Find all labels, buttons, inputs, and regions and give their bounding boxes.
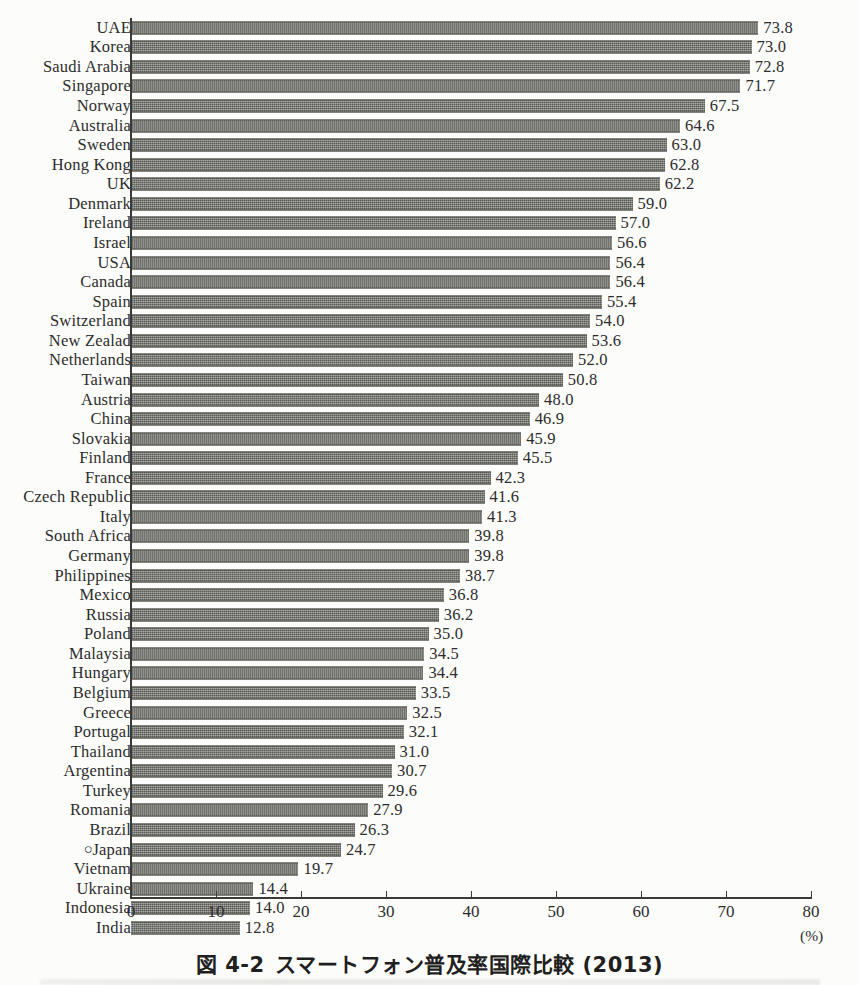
- x-tick: [301, 891, 302, 898]
- bar: [131, 256, 610, 269]
- x-tick-label: 80: [803, 903, 820, 920]
- bar: [131, 158, 665, 171]
- figure-title: スマートフォン普及率国際比較 (2013): [275, 953, 663, 977]
- category-label-uk: UK: [107, 176, 131, 193]
- category-label-philippines: Philippines: [55, 567, 131, 584]
- bar-value-label: 59.0: [638, 196, 668, 213]
- category-label-usa: USA: [97, 254, 131, 271]
- category-label-australia: Australia: [69, 117, 131, 134]
- category-label-ireland: Ireland: [83, 215, 131, 232]
- bar-value-label: 46.9: [535, 411, 565, 428]
- bar-value-label: 67.5: [710, 98, 740, 115]
- category-label-mexico: Mexico: [79, 587, 131, 604]
- bar-row: Belgium33.5: [0, 683, 859, 703]
- x-tick: [556, 891, 557, 898]
- category-label-singapore: Singapore: [62, 78, 131, 95]
- category-label-spain: Spain: [92, 293, 131, 310]
- bar: [131, 217, 616, 230]
- bar-value-label: 56.4: [615, 254, 645, 271]
- bar-row: Saudi Arabia72.8: [0, 57, 859, 77]
- bar: [131, 276, 610, 289]
- category-label-korea: Korea: [90, 39, 131, 56]
- figure-caption: 図 4-2スマートフォン普及率国際比較 (2013): [0, 948, 859, 978]
- bar-row: New Zealad53.6: [0, 331, 859, 351]
- bar-row: Australia64.6: [0, 116, 859, 136]
- bar-row: UAE73.8: [0, 18, 859, 38]
- bar-row: Turkey29.6: [0, 781, 859, 801]
- bar-row: Israel56.6: [0, 233, 859, 253]
- bar-value-label: 36.2: [444, 606, 474, 623]
- bar-row: Canada56.4: [0, 272, 859, 292]
- category-label-china: China: [91, 411, 131, 428]
- bar-value-label: 29.6: [388, 783, 418, 800]
- category-label-netherlands: Netherlands: [49, 352, 131, 369]
- bar-row: Ireland57.0: [0, 214, 859, 234]
- bar-value-label: 24.7: [346, 841, 376, 858]
- x-tick: [471, 891, 472, 898]
- bar-row: Italy41.3: [0, 507, 859, 527]
- bar-value-label: 19.7: [303, 861, 333, 878]
- category-label-taiwan: Taiwan: [81, 372, 131, 389]
- bar-value-label: 41.3: [487, 509, 517, 526]
- category-label-india: India: [96, 920, 131, 937]
- bar: [131, 530, 469, 543]
- category-label-slovakia: Slovakia: [72, 430, 131, 447]
- x-tick-label: 20: [293, 903, 310, 920]
- bar: [131, 295, 602, 308]
- bar-value-label: 50.8: [568, 372, 598, 389]
- category-label-vietnam: Vietnam: [74, 861, 131, 878]
- bar-row: Hungary34.4: [0, 664, 859, 684]
- bar: [131, 804, 368, 817]
- bar: [131, 687, 416, 700]
- bar: [131, 921, 240, 934]
- bar: [131, 119, 680, 132]
- bar-value-label: 34.5: [429, 646, 459, 663]
- bar-value-label: 33.5: [421, 685, 451, 702]
- bar-row: Germany39.8: [0, 546, 859, 566]
- bar: [131, 80, 740, 93]
- bar-row: Sweden63.0: [0, 135, 859, 155]
- bar: [131, 334, 587, 347]
- bar-value-label: 64.6: [685, 117, 715, 134]
- category-label-hungary: Hungary: [72, 665, 131, 682]
- category-label-israel: Israel: [93, 235, 131, 252]
- category-label-portugal: Portugal: [73, 724, 131, 741]
- bar-value-label: 31.0: [400, 743, 430, 760]
- bar-value-label: 52.0: [578, 352, 608, 369]
- bar: [131, 432, 521, 445]
- bar-value-label: 39.8: [474, 528, 504, 545]
- bar-value-label: 57.0: [621, 215, 651, 232]
- bar-value-label: 72.8: [755, 59, 785, 76]
- bar: [131, 491, 485, 504]
- bar-value-label: 14.4: [258, 880, 288, 897]
- bar-row: Hong Kong62.8: [0, 155, 859, 175]
- category-label-canada: Canada: [80, 274, 131, 291]
- category-label-new-zealad: New Zealad: [49, 333, 131, 350]
- bar-value-label: 56.6: [617, 235, 647, 252]
- bar-row: Thailand31.0: [0, 742, 859, 762]
- bar-value-label: 36.8: [449, 587, 479, 604]
- category-label-austria: Austria: [81, 391, 131, 408]
- category-label-france: France: [85, 470, 131, 487]
- bar-value-label: 39.8: [474, 548, 504, 565]
- bar: [131, 667, 423, 680]
- bar-value-label: 38.7: [465, 567, 495, 584]
- bar: [131, 139, 667, 152]
- bar-value-label: 14.0: [255, 900, 285, 917]
- bar: [131, 60, 750, 73]
- y-axis-line: [130, 18, 132, 899]
- page-bottom-artifact: [40, 979, 820, 985]
- bar-row: Argentina30.7: [0, 761, 859, 781]
- bar-value-label: 32.1: [409, 724, 439, 741]
- x-tick-label: 30: [378, 903, 395, 920]
- bar: [131, 589, 444, 602]
- bar-row: ○Japan24.7: [0, 840, 859, 860]
- bar: [131, 41, 752, 54]
- x-tick-label: 40: [463, 903, 480, 920]
- bar-row: Mexico36.8: [0, 585, 859, 605]
- bar-value-label: 30.7: [397, 763, 427, 780]
- x-tick: [216, 891, 217, 898]
- bar-row: Brazil26.3: [0, 820, 859, 840]
- category-label-russia: Russia: [86, 606, 131, 623]
- x-tick-label: 10: [208, 903, 225, 920]
